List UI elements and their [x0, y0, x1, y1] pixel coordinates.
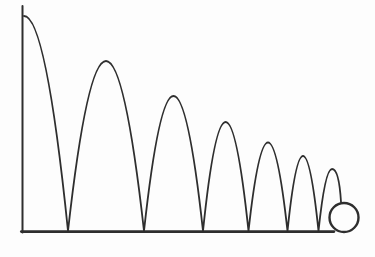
bouncing-ball-figure — [0, 0, 375, 257]
bouncing-ball-diagram — [0, 0, 375, 257]
